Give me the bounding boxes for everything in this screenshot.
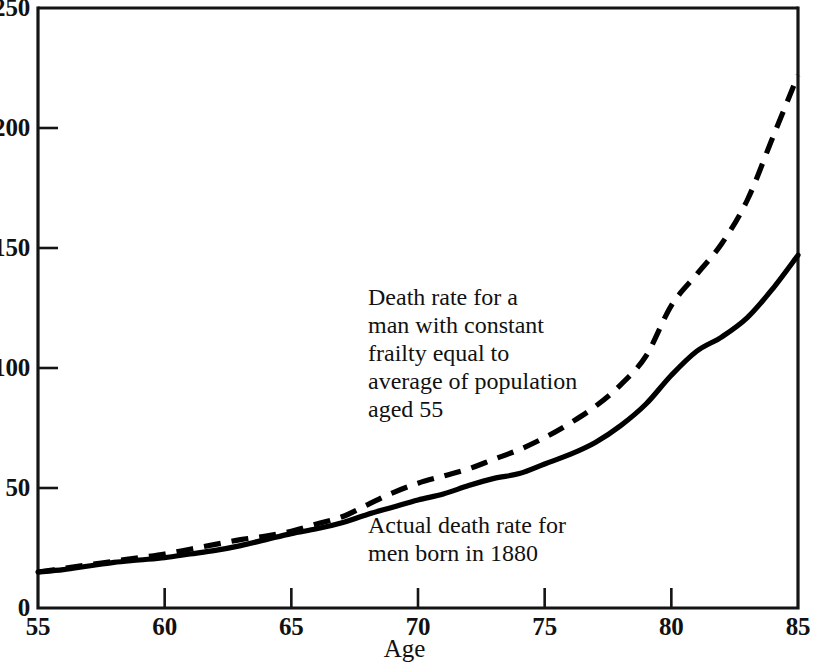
annotation-dashed-series: Death rate for a man with constant frail…: [368, 283, 577, 423]
x-axis-title: Age: [0, 636, 809, 661]
annotation-solid-series: Actual death rate for men born in 1880: [368, 511, 566, 567]
